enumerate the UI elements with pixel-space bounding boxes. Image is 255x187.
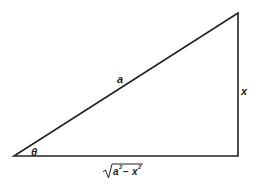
radicand-x: x: [131, 166, 138, 177]
right-triangle-diagram: a x θ a 2 − x 2: [0, 0, 255, 187]
opposite-side-label: x: [240, 85, 248, 97]
minus-sign: −: [123, 166, 129, 177]
radicand-x-exponent: 2: [137, 164, 142, 170]
angle-theta-label: θ: [31, 146, 37, 158]
triangle-shape: [14, 13, 238, 156]
adjacent-side-label: a 2 − x 2: [103, 164, 143, 178]
hypotenuse-label: a: [117, 73, 123, 85]
